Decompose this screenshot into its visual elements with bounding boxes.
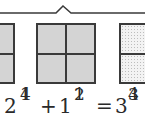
brace-bracket bbox=[0, 0, 145, 20]
denominator: 4 bbox=[128, 86, 139, 102]
fraction-model-left bbox=[0, 23, 15, 84]
denominator: 2 bbox=[74, 86, 85, 102]
denominator: 4 bbox=[20, 86, 31, 102]
divider-horizontal bbox=[0, 53, 13, 55]
result-whole: 3 bbox=[115, 96, 128, 116]
equals-sign: = bbox=[96, 96, 113, 116]
equation: 2 1 4 + 1 1 2 = 3 3 4 bbox=[0, 88, 145, 123]
fraction-model-right bbox=[119, 23, 145, 84]
term2-whole: 1 bbox=[59, 96, 72, 116]
divider-vertical bbox=[65, 25, 67, 82]
plus-sign: + bbox=[40, 96, 57, 116]
divider-horizontal bbox=[121, 53, 145, 55]
term1-whole: 2 bbox=[4, 96, 17, 116]
fraction-model-middle bbox=[36, 23, 96, 84]
